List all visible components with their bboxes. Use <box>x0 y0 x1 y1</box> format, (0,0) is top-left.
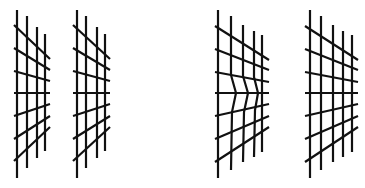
perspective-grid-figure <box>0 0 365 188</box>
grid-4-regular <box>305 10 358 178</box>
grid-1-regular <box>14 10 50 178</box>
converging-line <box>305 26 358 60</box>
converging-line <box>305 116 358 139</box>
grid-2-regular <box>73 10 110 178</box>
grid-3-distorted <box>215 10 269 178</box>
converging-line <box>305 72 358 82</box>
converging-line <box>305 104 358 116</box>
converging-line <box>305 49 358 70</box>
converging-line <box>305 127 358 162</box>
